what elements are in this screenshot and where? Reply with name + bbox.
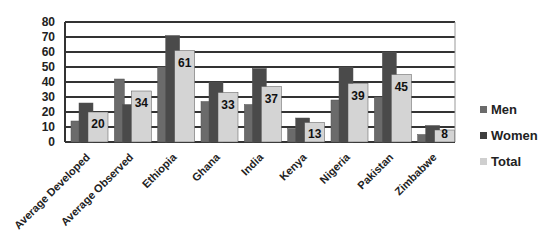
x-category-label: Ethiopia bbox=[140, 150, 180, 190]
legend-swatch-total bbox=[480, 158, 487, 165]
y-tick-label: 10 bbox=[42, 120, 56, 134]
y-tick-label: 60 bbox=[42, 45, 56, 59]
y-tick-label: 50 bbox=[42, 60, 56, 74]
x-category-label: India bbox=[239, 150, 266, 177]
data-label: 34 bbox=[135, 96, 149, 110]
y-tick-label: 20 bbox=[42, 105, 56, 119]
data-label: 61 bbox=[178, 56, 192, 70]
x-category-label: Nigeria bbox=[317, 150, 352, 185]
data-label: 8 bbox=[441, 127, 448, 141]
data-label: 37 bbox=[265, 92, 279, 106]
legend-swatch-women bbox=[480, 132, 487, 139]
legend-item-total: Total bbox=[480, 148, 538, 174]
y-axis-ticks: 01020304050607080 bbox=[42, 15, 56, 149]
data-label: 45 bbox=[395, 80, 409, 94]
legend-label-men: Men bbox=[491, 102, 517, 117]
x-category-label: Average Observed bbox=[58, 151, 135, 228]
x-category-label: Zimbabwe bbox=[392, 151, 439, 198]
y-tick-label: 0 bbox=[48, 135, 55, 149]
legend-item-men: Men bbox=[480, 96, 538, 122]
x-category-label: Kenya bbox=[277, 150, 309, 182]
legend-label-total: Total bbox=[491, 154, 521, 169]
y-tick-label: 70 bbox=[42, 30, 56, 44]
data-label: 20 bbox=[91, 117, 105, 131]
y-tick-label: 40 bbox=[42, 75, 56, 89]
x-category-label: Average Developed bbox=[12, 151, 92, 231]
data-label: 33 bbox=[221, 98, 235, 112]
y-tick-label: 80 bbox=[42, 15, 56, 29]
y-tick-label: 30 bbox=[42, 90, 56, 104]
x-category-label: Pakistan bbox=[355, 151, 396, 192]
x-category-label: Ghana bbox=[189, 150, 222, 183]
legend: Men Women Total bbox=[480, 96, 538, 174]
data-label: 13 bbox=[308, 127, 322, 141]
data-label: 39 bbox=[351, 89, 365, 103]
legend-label-women: Women bbox=[491, 128, 538, 143]
x-axis-categories: Average DevelopedAverage ObservedEthiopi… bbox=[12, 150, 439, 231]
bar-chart: 01020304050607080 20346133371339458 Aver… bbox=[0, 0, 549, 235]
legend-item-women: Women bbox=[480, 122, 538, 148]
legend-swatch-men bbox=[480, 106, 487, 113]
